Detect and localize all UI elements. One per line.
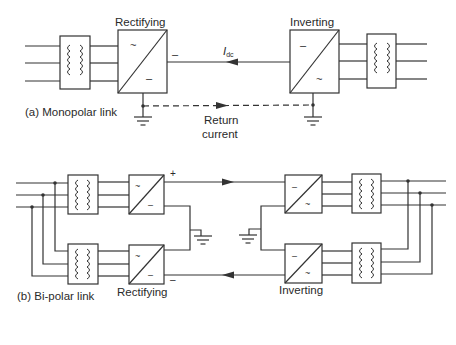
- arrow-left-icon: [222, 272, 234, 279]
- ground-icon: [134, 117, 152, 125]
- ac-symbol: ~: [130, 39, 136, 51]
- rectifier-converter-icon: ~ –: [129, 175, 164, 214]
- arrow-right-icon: [216, 102, 228, 109]
- svg-text:–: –: [292, 182, 297, 192]
- ground-icon: [304, 117, 322, 125]
- left-ac-bus: [16, 181, 68, 276]
- arrow-right-icon: [222, 179, 234, 186]
- svg-text:~: ~: [135, 251, 140, 261]
- rectifying-label: Rectifying: [115, 16, 166, 28]
- rectifier-converter-icon: ~ –: [118, 30, 167, 93]
- ground-icon: [239, 235, 257, 243]
- transformer-icon: [60, 36, 90, 89]
- positive-sign: +: [170, 168, 176, 179]
- caption-monopolar: (a) Monopolar link: [25, 106, 117, 118]
- inverter-converter-icon: – ~: [290, 30, 339, 93]
- dc-terminal-sign: –: [172, 48, 179, 60]
- inverting-label: Inverting: [279, 284, 323, 296]
- current-label: current: [202, 128, 239, 140]
- arrow-left-icon: [226, 59, 238, 66]
- svg-text:–: –: [148, 200, 153, 210]
- dc-symbol: –: [300, 39, 307, 51]
- ac-symbol: ~: [316, 73, 322, 85]
- inverter-converter-icon: – ~: [285, 175, 322, 213]
- transformer-icon: [352, 243, 381, 283]
- dc-symbol: –: [146, 72, 153, 84]
- caption-bipolar: (b) Bi-polar link: [17, 290, 95, 302]
- transformer-icon: [367, 34, 396, 88]
- svg-text:~: ~: [305, 268, 310, 278]
- svg-text:~: ~: [305, 199, 310, 209]
- svg-text:~: ~: [135, 181, 140, 191]
- ground-icon: [194, 236, 212, 244]
- inverter-converter-icon: – ~: [285, 244, 322, 283]
- transformer-icon: [68, 244, 98, 284]
- transformer-icon: [352, 174, 381, 213]
- idc-label: Idc: [223, 45, 234, 58]
- bipolar-panel: ~ – ~ – + – – ~: [16, 168, 446, 302]
- hvdc-diagram: ~ – Rectifying – Idc – ~ Inverting: [0, 0, 456, 345]
- svg-text:–: –: [148, 270, 153, 280]
- right-ac-bus: [381, 179, 446, 274]
- inverting-label: Inverting: [290, 16, 334, 28]
- svg-text:–: –: [292, 251, 297, 261]
- rectifier-converter-icon: ~ –: [129, 245, 164, 284]
- return-label: Return: [204, 114, 239, 126]
- negative-sign: –: [170, 274, 176, 285]
- transformer-icon: [68, 175, 98, 214]
- monopolar-panel: ~ – Rectifying – Idc – ~ Inverting: [25, 16, 427, 140]
- rectifying-label: Rectifying: [117, 286, 168, 298]
